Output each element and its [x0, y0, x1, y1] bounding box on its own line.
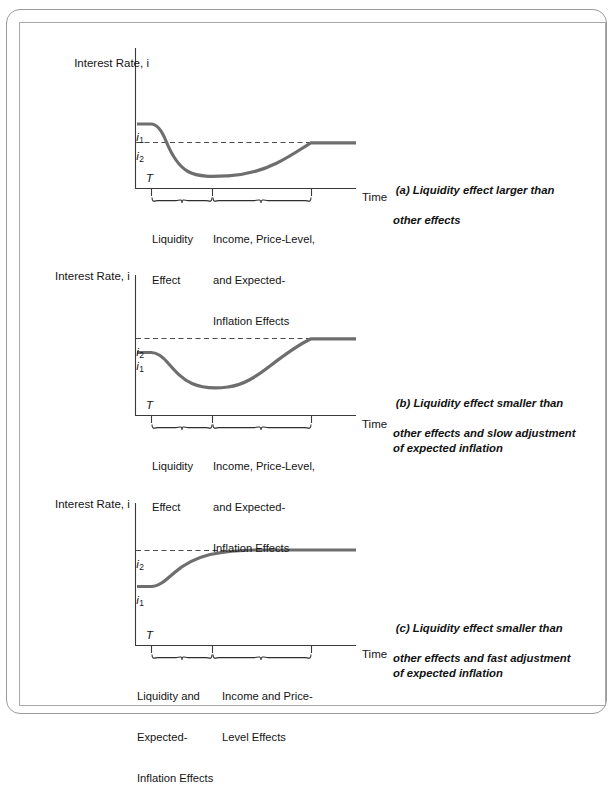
panel-c-bracket-liquidity-line3: Inflation Effects	[137, 772, 213, 786]
panel-a-graph	[135, 48, 356, 203]
panel-c-bracket-income-line2: Level Effects	[222, 731, 313, 745]
panel-b-interest-rate-curve	[137, 339, 356, 388]
panel-c-brace-liquidity-expected-inflation	[152, 655, 212, 661]
panel-a-brace-other	[213, 198, 311, 204]
panel-b-brace-liquidity	[152, 425, 212, 431]
panel-c-bracket-liquidity-line2: Expected-	[137, 731, 213, 745]
panel-a-brace-liquidity	[152, 198, 212, 204]
panel-a-interest-rate-curve	[137, 124, 356, 176]
panel-c-graph	[135, 503, 356, 660]
panel-b-brace-other	[213, 425, 311, 431]
panel-c-interest-rate-curve	[137, 550, 356, 587]
panel-c-brace-income-price-level	[213, 655, 311, 661]
panel-b-graph	[135, 275, 356, 430]
